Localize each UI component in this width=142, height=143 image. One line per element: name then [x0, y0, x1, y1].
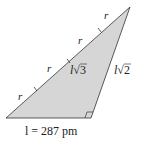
triangle-diagram: r r r r l√3 l√2 l = 287 pm	[0, 0, 142, 143]
tick-mark-3	[98, 28, 101, 32]
segment-label-r1: r	[18, 90, 23, 102]
tick-mark-1	[34, 87, 37, 91]
side-label: l√2	[114, 63, 130, 77]
segment-label-r4: r	[104, 9, 109, 21]
base-label: l = 287 pm	[25, 124, 78, 138]
right-triangle	[6, 7, 130, 118]
segment-label-r3: r	[78, 34, 83, 46]
hypotenuse-label: l√3	[70, 63, 86, 77]
segment-label-r2: r	[47, 62, 52, 74]
